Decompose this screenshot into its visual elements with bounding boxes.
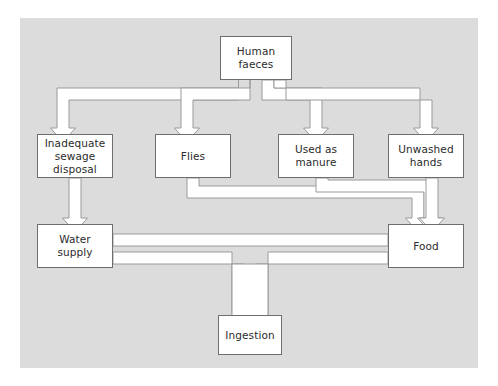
node-ingestion[interactable]: Ingestion [218,315,282,355]
node-flies-label: Flies [179,150,207,163]
node-human-faeces-label: Human faeces [235,45,277,71]
node-food[interactable]: Food [388,224,464,268]
node-inadequate-sewage-disposal-label: Inadequate sewage disposal [43,137,108,176]
node-inadequate-sewage-disposal[interactable]: Inadequate sewage disposal [37,134,113,178]
node-ingestion-label: Ingestion [223,329,276,342]
node-unwashed-hands-label: Unwashed hands [396,143,455,169]
edge-water-to-ingestion [113,252,244,322]
node-used-as-manure-label: Used as manure [293,143,339,169]
node-human-faeces[interactable]: Human faeces [220,36,292,80]
edge-food-to-ingestion [256,252,388,322]
figure-container: Human faeces Inadequate sewage disposal … [0,0,498,386]
node-used-as-manure[interactable]: Used as manure [278,134,354,178]
edge-water-to-food [113,234,388,246]
edge-source-to-hands [274,80,439,142]
node-water-supply[interactable]: Water supply [37,224,113,268]
arrow-stem-into-ingestion [232,264,268,318]
node-water-supply-label: Water supply [55,233,94,259]
edge-source-to-flies [175,80,251,142]
node-flies[interactable]: Flies [155,134,231,178]
node-unwashed-hands[interactable]: Unwashed hands [388,134,464,178]
node-food-label: Food [411,240,441,253]
